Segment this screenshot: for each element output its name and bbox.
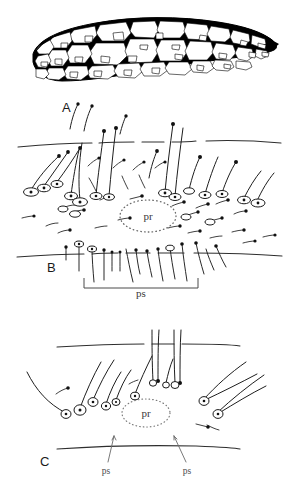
- panel-c-ps-label-left: ps: [102, 466, 111, 476]
- panel-c-setae: [27, 330, 266, 413]
- panel-b-label: B: [47, 260, 56, 275]
- panel-a-illustration: [33, 18, 279, 81]
- panel-c-lower-boundary: [57, 446, 240, 449]
- panel-c-ps-label-right: ps: [183, 466, 192, 476]
- panel-b-illustration: pr ps: [17, 102, 282, 299]
- panel-b-upper-boundary: [18, 141, 281, 147]
- panel-a-label: A: [62, 100, 71, 115]
- panel-b-lower-boundary: [17, 253, 282, 257]
- panel-c-ps-leaders: [108, 436, 186, 462]
- panel-c-label: C: [40, 454, 49, 469]
- panel-b-setal-dots: [32, 102, 276, 253]
- panel-c-upper-boundary: [57, 344, 240, 347]
- panel-c-illustration: pr ps ps: [27, 330, 266, 476]
- panel-b-pr-label: pr: [143, 210, 153, 222]
- panel-b-ps-label: ps: [136, 287, 146, 299]
- panel-c-pr-label: pr: [141, 407, 151, 419]
- figure-plate: A: [0, 0, 296, 500]
